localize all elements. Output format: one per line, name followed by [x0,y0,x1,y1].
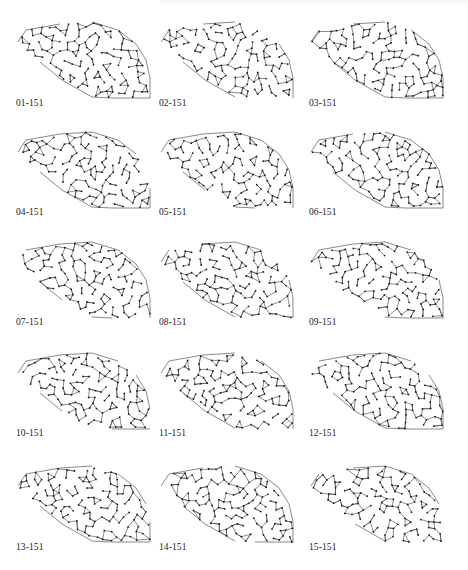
graph-panel-07: 07-151 [0,220,150,330]
panel-label: 09-151 [309,317,337,327]
graph-panel-01: 01-151 [0,0,150,110]
network-graph [0,444,150,544]
network-graph [293,0,443,100]
network-graph [0,110,150,210]
graph-panel-08: 08-151 [143,220,293,330]
network-graph [293,444,443,544]
network-graph [143,444,293,544]
network-graph [0,331,150,431]
network-graph [0,0,150,100]
panel-label: 10-151 [16,428,44,438]
panel-label: 03-151 [309,98,337,108]
figure-grid: 01-151 02-151 03-151 04-151 05-151 06-15… [0,0,468,570]
panel-label: 05-151 [159,207,187,217]
graph-panel-13: 13-151 [0,444,150,554]
panel-label: 13-151 [16,542,44,552]
panel-label: 04-151 [16,207,44,217]
network-graph [0,220,150,320]
graph-panel-15: 15-151 [293,444,443,554]
network-graph [143,331,293,431]
graph-panel-10: 10-151 [0,331,150,441]
network-graph [143,220,293,320]
graph-panel-09: 09-151 [293,220,443,330]
panel-label: 02-151 [159,98,187,108]
panel-label: 12-151 [309,428,337,438]
graph-panel-05: 05-151 [143,110,293,220]
graph-panel-06: 06-151 [293,110,443,220]
network-graph [143,0,293,100]
panel-label: 01-151 [16,98,44,108]
panel-label: 15-151 [309,542,337,552]
panel-label: 06-151 [309,207,337,217]
graph-panel-12: 12-151 [293,331,443,441]
network-graph [143,110,293,210]
graph-panel-04: 04-151 [0,110,150,220]
graph-panel-11: 11-151 [143,331,293,441]
graph-panel-02: 02-151 [143,0,293,110]
panel-label: 11-151 [159,428,186,438]
graph-panel-03: 03-151 [293,0,443,110]
graph-panel-14: 14-151 [143,444,293,554]
panel-label: 08-151 [159,317,187,327]
network-graph [293,331,443,431]
panel-label: 07-151 [16,317,44,327]
panel-label: 14-151 [159,542,187,552]
network-graph [293,220,443,320]
network-graph [293,110,443,210]
